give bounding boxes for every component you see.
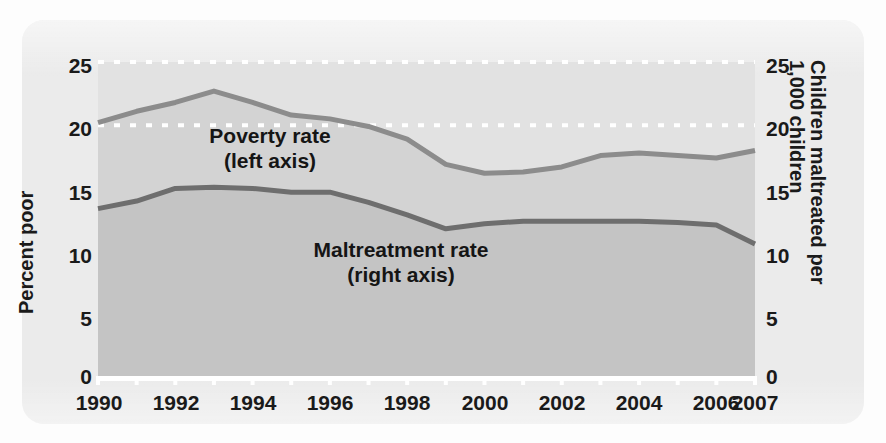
x-label-1992: 1992 [137, 392, 215, 413]
x-label-2004: 2004 [600, 392, 678, 413]
left-axis-title: Percent poor [16, 288, 37, 314]
x-label-1994: 1994 [214, 392, 292, 413]
left-tick-0: 0 [58, 366, 92, 387]
right-tick-15: 15 [766, 182, 800, 203]
right-axis-title-line1: Children maltreated per [807, 60, 829, 285]
right-tick-5: 5 [766, 308, 800, 329]
x-label-2000: 2000 [446, 392, 524, 413]
right-tick-25: 25 [766, 55, 800, 76]
x-label-1998: 1998 [368, 392, 446, 413]
chart-canvas [98, 62, 755, 378]
x-label-2002: 2002 [523, 392, 601, 413]
poverty-rate-annotation: Poverty rate (left axis) [180, 124, 360, 174]
left-tick-15: 15 [58, 182, 92, 203]
x-label-2007: 2007 [716, 392, 794, 413]
chart-screenshot: Percent poor Children maltreated per 1,0… [0, 0, 886, 443]
left-tick-20: 20 [58, 118, 92, 139]
x-label-1996: 1996 [291, 392, 369, 413]
left-tick-25: 25 [58, 55, 92, 76]
maltreatment-rate-annotation: Maltreatment rate (right axis) [290, 238, 512, 288]
x-label-1990: 1990 [60, 392, 138, 413]
poverty-annotation-line1: Poverty rate [209, 124, 330, 147]
plot-area [98, 62, 755, 378]
maltreatment-annotation-line1: Maltreatment rate [313, 238, 488, 261]
x-tick-marks [98, 376, 755, 385]
maltreatment-annotation-line2: (right axis) [347, 263, 454, 286]
right-tick-10: 10 [766, 245, 800, 266]
left-tick-5: 5 [58, 308, 92, 329]
poverty-annotation-line2: (left axis) [224, 149, 316, 172]
left-tick-10: 10 [58, 245, 92, 266]
right-tick-20: 20 [766, 118, 800, 139]
